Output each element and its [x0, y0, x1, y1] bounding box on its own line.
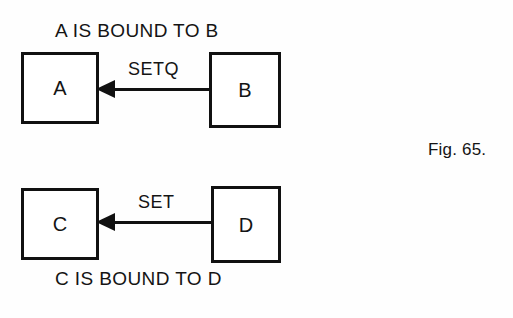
node-label-a: A [53, 78, 66, 98]
node-label-c: C [53, 214, 67, 234]
node-label-b: B [238, 80, 251, 100]
figure-caption: Fig. 65. [428, 140, 486, 160]
diagram-upper: A IS BOUND TO B A B SETQ [0, 0, 300, 140]
arrow-head-d-to-c [96, 213, 115, 231]
node-box-c[interactable]: C [21, 188, 99, 260]
diagram-upper-title: A IS BOUND TO B [55, 20, 219, 42]
figure-canvas: A IS BOUND TO B A B SETQ C D SET [0, 0, 513, 318]
node-box-b[interactable]: B [209, 52, 281, 128]
node-label-d: D [239, 215, 253, 235]
node-box-a[interactable]: A [21, 52, 99, 124]
node-box-d[interactable]: D [211, 186, 281, 263]
arrow-head-b-to-a [96, 80, 115, 98]
diagram-lower: C D SET C IS BOUND TO D [0, 180, 300, 300]
arrow-shaft-b-to-a [113, 88, 210, 91]
edge-label-setq: SETQ [128, 59, 179, 80]
edge-label-set: SET [138, 192, 175, 213]
diagram-lower-title: C IS BOUND TO D [55, 268, 222, 290]
arrow-shaft-d-to-c [113, 221, 212, 224]
